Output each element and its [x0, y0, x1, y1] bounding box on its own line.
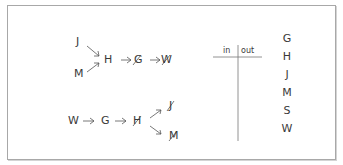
- node-h-top: H: [104, 54, 112, 66]
- letter-m: M: [280, 86, 294, 99]
- letter-s: S: [280, 104, 294, 117]
- arrow-icon: [87, 46, 99, 56]
- arrow-icon: [87, 63, 99, 72]
- letter-j: J: [280, 68, 294, 81]
- node-m-bottom-crossed: M: [169, 130, 179, 142]
- node-g-bottom: G: [101, 115, 110, 127]
- t-chart-in-header: in: [223, 46, 230, 55]
- letter-g: G: [280, 32, 294, 45]
- node-w-top-crossed: W: [161, 54, 172, 66]
- node-j-top: J: [76, 36, 79, 48]
- node-w-bottom: W: [68, 115, 79, 127]
- letter-h: H: [280, 50, 294, 63]
- node-j-bottom-crossed: J: [169, 100, 172, 112]
- node-h-bottom-crossed: H: [133, 115, 141, 127]
- node-g-top-crossed: G: [134, 54, 143, 66]
- node-m-top: M: [74, 68, 84, 80]
- letter-w: W: [280, 122, 294, 135]
- t-chart-out-header: out: [241, 46, 254, 55]
